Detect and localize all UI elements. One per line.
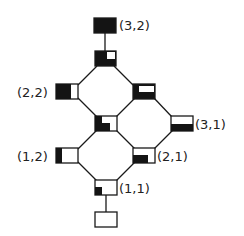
label-3-2: (3,2) — [119, 18, 150, 33]
lattice-diagram: (3,2) (2,2) (3,1) (1,2) (2,1) (1,1) — [0, 0, 244, 236]
edge — [78, 130, 97, 149]
label-1-2: (1,2) — [17, 149, 48, 164]
node-bottom — [95, 212, 117, 227]
label-2-1: (2,1) — [157, 149, 188, 164]
node-right-upper — [133, 84, 155, 99]
node-2-2 — [56, 84, 78, 99]
node-2-1 — [133, 148, 155, 163]
node-1-1 — [95, 180, 117, 195]
node-3-1 — [171, 116, 193, 131]
edge — [78, 98, 97, 117]
edge — [114, 66, 133, 85]
label-1-1: (1,1) — [119, 181, 150, 196]
node-top-second — [95, 51, 116, 66]
edge — [154, 98, 172, 117]
edge — [116, 98, 135, 117]
edge — [116, 130, 135, 149]
label-2-2: (2,2) — [17, 85, 48, 100]
edge — [154, 130, 173, 149]
node-1-2 — [56, 148, 78, 163]
edge — [78, 162, 97, 181]
label-3-1: (3,1) — [195, 117, 226, 132]
node-middle — [95, 116, 117, 131]
edge — [116, 162, 135, 181]
node-3-2 — [94, 18, 116, 33]
edge — [78, 66, 97, 85]
